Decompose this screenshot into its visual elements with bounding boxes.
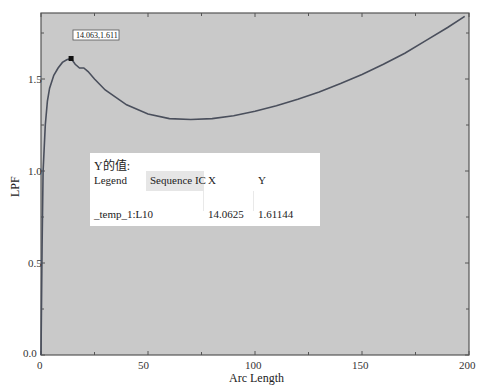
y-tick-1.5: 1.5 bbox=[28, 73, 42, 85]
x-tick-150: 150 bbox=[352, 359, 369, 371]
column-divider bbox=[203, 191, 204, 211]
row-legend: _temp_1:L bbox=[94, 208, 142, 220]
data-info-panel: Y的值: Legend Sequence IC X Y _temp_1:L 10… bbox=[90, 153, 320, 226]
data-point-marker[interactable] bbox=[69, 56, 74, 61]
x-tick-0: 0 bbox=[37, 359, 43, 371]
y-tick-0.0: 0.0 bbox=[23, 347, 37, 359]
y-axis-title: LPF bbox=[8, 176, 22, 197]
x-tick-200: 200 bbox=[459, 359, 476, 371]
y-tick-1.0: 1.0 bbox=[28, 165, 42, 177]
row-x: 14.0625 bbox=[208, 208, 244, 220]
info-panel-title: Y的值: bbox=[94, 156, 130, 174]
header-legend: Legend bbox=[94, 174, 127, 186]
column-divider bbox=[253, 191, 254, 211]
x-axis-title: Arc Length bbox=[229, 371, 284, 385]
row-y: 1.61144 bbox=[258, 208, 293, 220]
row-sequence: 10 bbox=[142, 208, 153, 220]
header-x: X bbox=[208, 174, 216, 186]
y-tick-0.5: 0.5 bbox=[28, 257, 42, 269]
header-sequence: Sequence IC bbox=[150, 174, 206, 186]
header-y: Y bbox=[258, 174, 266, 186]
point-tooltip: 14.063,1.611 bbox=[73, 30, 119, 40]
x-tick-50: 50 bbox=[138, 359, 150, 371]
tooltip-label: 14.063,1.611 bbox=[76, 31, 118, 40]
x-tick-100: 100 bbox=[245, 359, 262, 371]
